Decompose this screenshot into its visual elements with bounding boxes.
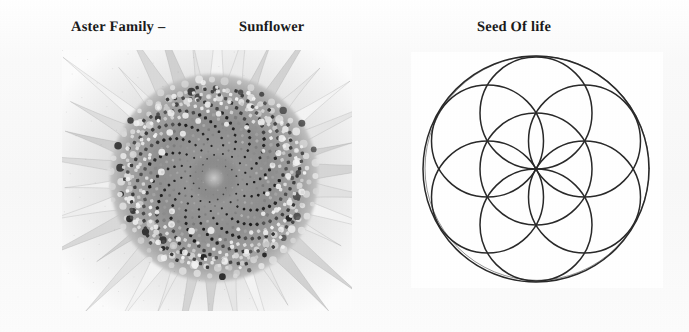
- grain-speck: [190, 75, 191, 76]
- seed-highlight: [244, 249, 249, 254]
- grain-speck: [256, 78, 257, 79]
- seed-highlight: [293, 159, 300, 166]
- grain-speck: [77, 297, 78, 298]
- grain-speck: [224, 289, 225, 290]
- seed: [221, 244, 225, 248]
- floret: [298, 227, 305, 234]
- grain-speck: [298, 234, 299, 235]
- seed-highlight: [136, 204, 141, 209]
- seed-highlight: [161, 255, 167, 261]
- floret: [138, 237, 145, 244]
- grain-speck: [180, 233, 181, 234]
- grain-speck: [228, 90, 229, 91]
- grain-speck: [97, 83, 98, 84]
- floret: [269, 256, 277, 264]
- seed: [283, 183, 287, 187]
- grain-speck: [283, 249, 284, 250]
- seed-highlight: [169, 208, 175, 214]
- grain-speck: [337, 67, 338, 68]
- floret: [157, 89, 164, 96]
- grain-speck: [240, 93, 241, 94]
- grain-speck: [148, 183, 149, 184]
- floret: [194, 270, 201, 277]
- seed: [242, 178, 244, 180]
- floret: [119, 203, 126, 210]
- seed: [210, 145, 212, 147]
- grain-speck: [312, 58, 313, 59]
- grain-speck: [116, 130, 117, 131]
- floret: [306, 180, 311, 185]
- seed-highlight: [196, 241, 200, 245]
- grain-speck: [143, 300, 144, 301]
- grain-speck: [131, 297, 132, 298]
- grain-speck: [277, 287, 278, 288]
- floret: [147, 257, 152, 262]
- seed-highlight: [154, 133, 157, 136]
- floret: [304, 213, 311, 220]
- floret: [221, 77, 229, 85]
- grain-speck: [294, 173, 295, 174]
- grain-speck: [296, 73, 297, 74]
- grain-speck: [108, 267, 109, 268]
- grain-speck: [242, 254, 243, 255]
- grain-speck: [65, 293, 66, 294]
- grain-speck: [264, 281, 265, 282]
- grain-speck: [208, 222, 209, 223]
- seed: [216, 222, 219, 225]
- grain-speck: [213, 104, 214, 105]
- grain-speck: [121, 273, 122, 274]
- grain-speck: [91, 121, 92, 122]
- grain-speck: [174, 271, 175, 272]
- grain-speck: [339, 229, 340, 230]
- seed-highlight: [298, 189, 305, 196]
- grain-speck: [74, 235, 75, 236]
- grain-speck: [72, 74, 73, 75]
- seed: [164, 178, 167, 181]
- floret: [147, 248, 152, 253]
- grain-speck: [345, 270, 346, 271]
- seed: [131, 175, 134, 178]
- grain-speck: [322, 161, 323, 162]
- floret: [219, 273, 226, 280]
- grain-speck: [246, 55, 247, 56]
- grain-speck: [321, 82, 322, 83]
- seed: [128, 182, 132, 186]
- grain-speck: [291, 190, 292, 191]
- seed-highlight: [280, 121, 284, 125]
- seed-highlight: [278, 227, 284, 233]
- grain-speck: [323, 243, 324, 244]
- seed-highlight: [258, 119, 265, 126]
- seed: [186, 180, 188, 182]
- grain-speck: [73, 156, 74, 157]
- grain-speck: [274, 304, 275, 305]
- seed-highlight: [176, 236, 181, 241]
- seed: [215, 256, 218, 259]
- grain-speck: [103, 306, 104, 307]
- seed: [130, 164, 134, 168]
- seed: [281, 173, 285, 177]
- grain-speck: [317, 199, 318, 200]
- grain-speck: [162, 86, 163, 87]
- seed-highlight: [285, 173, 291, 179]
- seed: [217, 118, 220, 121]
- seed-highlight: [276, 184, 281, 189]
- floret: [312, 159, 320, 167]
- seed-highlight: [275, 150, 281, 156]
- grain-speck: [240, 275, 241, 276]
- grain-speck: [291, 111, 292, 112]
- grain-speck: [138, 159, 139, 160]
- floret: [120, 224, 126, 230]
- grain-speck: [178, 72, 179, 73]
- grain-speck: [249, 298, 250, 299]
- grain-speck: [313, 138, 314, 139]
- floret: [312, 173, 318, 179]
- grain-speck: [158, 206, 159, 207]
- grain-speck: [347, 170, 348, 171]
- grain-speck: [105, 206, 106, 207]
- seed: [199, 93, 203, 97]
- grain-speck: [300, 134, 301, 135]
- seed: [169, 174, 172, 177]
- grain-speck: [135, 177, 136, 178]
- seed: [213, 98, 216, 101]
- floret: [237, 80, 242, 85]
